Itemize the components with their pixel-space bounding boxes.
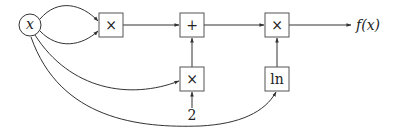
multiply-label-output: ×: [271, 17, 283, 33]
constant-two: 2: [188, 107, 197, 123]
ln-node: ln: [265, 67, 289, 91]
edge-x-to-ln: [31, 37, 276, 126]
multiply-node-2: ×: [180, 67, 204, 91]
add-label: +: [186, 17, 198, 33]
edge-x-to-mul1-upper: [40, 6, 98, 21]
add-node: +: [180, 13, 204, 37]
input-node-x: x: [19, 14, 41, 36]
multiply-node-output: ×: [265, 13, 289, 37]
multiply-label-2: ×: [186, 71, 198, 87]
ln-label: ln: [270, 71, 284, 87]
multiply-node-1: ×: [99, 13, 123, 37]
edge-x-to-mul1-lower: [40, 31, 98, 44]
computational-graph: x × + × × ln 2 f(x): [0, 0, 394, 133]
output-label: f(x): [355, 17, 380, 33]
multiply-label-1: ×: [105, 17, 117, 33]
input-label: x: [26, 16, 34, 32]
